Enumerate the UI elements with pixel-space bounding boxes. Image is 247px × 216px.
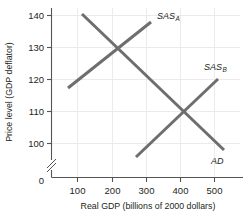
sas-a-label: SASA [157,11,180,22]
sas-b-curve [136,79,218,157]
xtick-label-200: 200 [105,185,121,196]
sas-b-label: SASB [204,62,228,73]
x-tick-labels: 100 200 300 400 500 [70,185,223,196]
y-axis-title: Price level (GDP deflator) [4,42,14,142]
chart-container: 140 130 120 110 100 0 100 200 300 400 50… [0,0,247,216]
ytick-label-130: 130 [28,42,44,53]
x-tick-marks [78,178,215,183]
origin-label: 0 [39,175,44,186]
xtick-label-500: 500 [207,185,223,196]
ad-curve [82,14,224,150]
x-axis-title: Real GDP (billions of 2000 dollars) [81,201,216,211]
economics-line-chart: 140 130 120 110 100 0 100 200 300 400 50… [0,0,247,216]
grid-lines-vertical [78,8,215,177]
y-tick-marks [47,16,52,144]
ytick-label-110: 110 [29,106,44,117]
y-tick-labels: 140 130 120 110 100 0 [28,10,44,186]
xtick-label-300: 300 [139,185,155,196]
ad-label: AD [210,156,224,166]
xtick-label-400: 400 [173,185,189,196]
sas-a-curve [68,22,151,88]
ytick-label-120: 120 [28,74,44,85]
xtick-label-100: 100 [70,185,86,196]
ytick-label-140: 140 [28,10,44,21]
ytick-label-100: 100 [28,138,44,149]
